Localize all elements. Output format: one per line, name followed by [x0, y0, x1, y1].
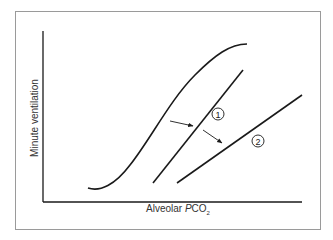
x-axis-label-italic: P	[185, 203, 192, 214]
x-axis-label: Alveolar PCO2	[128, 203, 228, 216]
y-axis-label: Minute ventilation	[29, 79, 40, 157]
curve-1-marker-label: 1	[215, 110, 220, 120]
x-axis-label-sub: 2	[207, 210, 210, 216]
curve-1	[153, 70, 243, 183]
shift-arrow-2	[203, 130, 222, 143]
x-axis-label-prefix: Alveolar	[146, 203, 185, 214]
x-axis-label-main: CO	[192, 203, 207, 214]
curve-2	[177, 95, 302, 183]
shift-arrow-1	[170, 121, 193, 126]
curve-2-marker-label: 2	[255, 137, 260, 147]
